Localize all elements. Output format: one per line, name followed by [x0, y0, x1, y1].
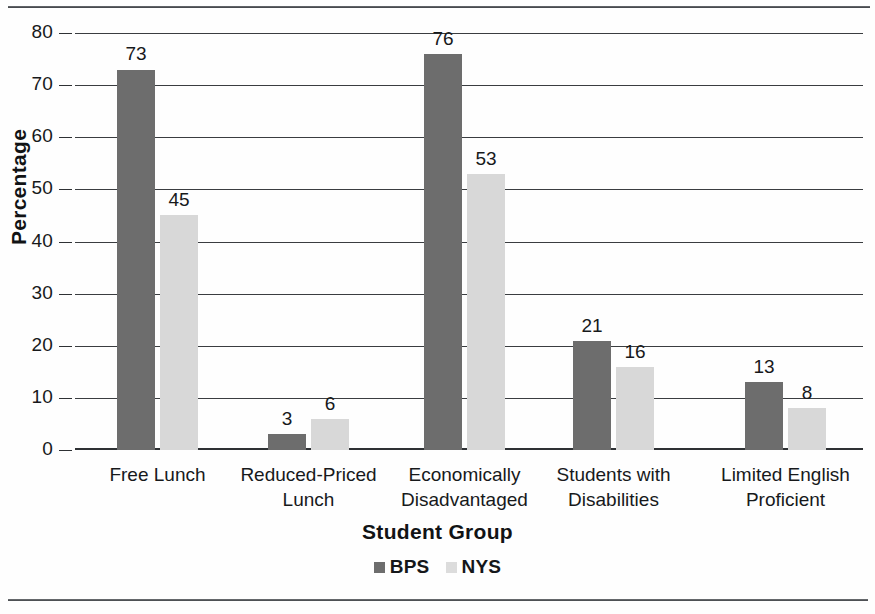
- bar-bps: [117, 70, 155, 451]
- gridline: [75, 85, 863, 86]
- y-tick-mark: [59, 85, 72, 86]
- y-tick-label: 30: [3, 282, 53, 304]
- legend-label: NYS: [462, 556, 502, 578]
- y-tick-label: 50: [3, 177, 53, 199]
- category-label: Limited English Proficient: [696, 462, 875, 512]
- bar-bps: [268, 434, 306, 450]
- y-tick-mark: [59, 346, 72, 347]
- gridline: [75, 137, 863, 138]
- bar-value-label: 53: [461, 148, 511, 170]
- y-tick-mark: [59, 450, 72, 451]
- bar-value-label: 16: [610, 341, 660, 363]
- bar-bps: [573, 341, 611, 450]
- y-tick-label: 60: [3, 125, 53, 147]
- chart-legend: BPSNYS: [0, 556, 875, 578]
- bar-nys: [616, 367, 654, 450]
- top-divider-rule: [8, 6, 870, 8]
- y-tick-mark: [59, 398, 72, 399]
- chart-figure: Percentage 01020304050607080 73453676532…: [0, 0, 875, 614]
- bar-bps: [424, 54, 462, 450]
- y-tick-mark: [59, 242, 72, 243]
- y-tick-mark: [59, 189, 72, 190]
- y-tick-label: 20: [3, 334, 53, 356]
- bar-bps: [745, 382, 783, 450]
- bar-nys: [467, 174, 505, 450]
- y-tick-mark: [59, 33, 72, 34]
- plot-area: 01020304050607080 73453676532116138: [75, 33, 863, 450]
- legend-swatch-icon: [446, 562, 457, 573]
- y-tick-label: 40: [3, 230, 53, 252]
- bar-nys: [311, 419, 349, 450]
- legend-item-nys: NYS: [446, 556, 502, 578]
- legend-label: BPS: [390, 556, 430, 578]
- category-label: Students with Disabilities: [524, 462, 704, 512]
- bar-value-label: 13: [739, 356, 789, 378]
- y-tick-mark: [59, 137, 72, 138]
- y-tick-label: 0: [3, 438, 53, 460]
- bar-nys: [160, 215, 198, 450]
- bottom-divider-rule: [8, 599, 868, 601]
- gridline: [75, 33, 863, 34]
- category-label: Reduced-Priced Lunch: [219, 462, 399, 512]
- bar-value-label: 6: [305, 393, 355, 415]
- legend-item-bps: BPS: [374, 556, 430, 578]
- y-tick-mark: [59, 294, 72, 295]
- bar-value-label: 73: [111, 43, 161, 65]
- y-tick-label: 70: [3, 73, 53, 95]
- bar-value-label: 21: [567, 315, 617, 337]
- bar-value-label: 45: [154, 189, 204, 211]
- legend-swatch-icon: [374, 562, 385, 573]
- bar-value-label: 8: [782, 382, 832, 404]
- y-tick-label: 80: [3, 21, 53, 43]
- bar-value-label: 76: [418, 28, 468, 50]
- x-axis-title: Student Group: [0, 520, 875, 544]
- y-tick-label: 10: [3, 386, 53, 408]
- bar-nys: [788, 408, 826, 450]
